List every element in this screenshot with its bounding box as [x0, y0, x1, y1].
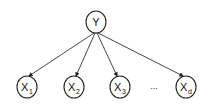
edge-y-x1 [29, 33, 94, 76]
diagram-canvas: Y X 1 X 2 X 3 ... X d [0, 0, 207, 106]
node-x3-label: X [114, 81, 122, 93]
node-x2-label: X [68, 81, 76, 93]
edge-y-xd [98, 33, 183, 76]
node-x3-subscript: 3 [122, 88, 126, 95]
edge-y-x2 [76, 33, 95, 76]
node-x3: X 3 [110, 76, 130, 98]
node-x2-subscript: 2 [76, 88, 80, 95]
ellipsis: ... [150, 81, 158, 91]
node-x2: X 2 [64, 76, 84, 98]
node-xd-label: X [180, 81, 188, 93]
node-x1: X 1 [17, 76, 37, 98]
node-x1-label: X [21, 81, 29, 93]
node-xd: X d [176, 76, 196, 98]
node-x1-subscript: 1 [29, 88, 33, 95]
node-xd-subscript: d [188, 88, 192, 95]
edges [29, 33, 183, 76]
edge-y-x3 [97, 33, 117, 76]
node-y: Y [86, 11, 106, 33]
node-y-label: Y [92, 16, 100, 28]
